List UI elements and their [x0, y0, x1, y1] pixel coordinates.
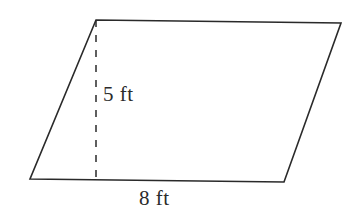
base-measurement-label: 8 ft [139, 188, 170, 209]
height-measurement-label: 5 ft [103, 84, 134, 105]
parallelogram-diagram [0, 0, 361, 221]
parallelogram-outline [30, 20, 341, 182]
figure-canvas: 5 ft 8 ft [0, 0, 361, 221]
